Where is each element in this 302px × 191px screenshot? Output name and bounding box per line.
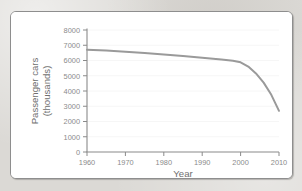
x-tick-label: 1970: [117, 158, 133, 167]
y-tick-label: 5000: [64, 72, 80, 81]
y-tick-label: 2000: [64, 117, 80, 126]
page-background: 8000 7000 6000 5000 4000 3000 2000 1000 …: [0, 0, 302, 191]
x-tick-label: 2000: [232, 158, 248, 167]
y-axis-title-line1: Passenger cars: [29, 57, 40, 124]
x-tick-label: 1980: [156, 158, 172, 167]
x-tick-label: 2010: [271, 158, 287, 167]
y-tick-label: 3000: [64, 102, 80, 111]
figure-card: 8000 7000 6000 5000 4000 3000 2000 1000 …: [10, 11, 293, 179]
y-axis-title-line2: (thousands): [41, 66, 52, 117]
y-tick-label: 7000: [64, 41, 80, 50]
plot-background: [11, 12, 292, 178]
y-tick-label: 4000: [64, 87, 80, 96]
x-axis-title: Year: [173, 168, 193, 178]
line-chart: 8000 7000 6000 5000 4000 3000 2000 1000 …: [11, 12, 292, 178]
x-tick-label: 1960: [79, 158, 95, 167]
x-tick-label: 1990: [194, 158, 210, 167]
y-tick-label: 8000: [64, 26, 80, 35]
y-tick-label: 1000: [64, 133, 80, 142]
y-tick-label: 6000: [64, 56, 80, 65]
y-tick-label: 0: [76, 148, 80, 157]
